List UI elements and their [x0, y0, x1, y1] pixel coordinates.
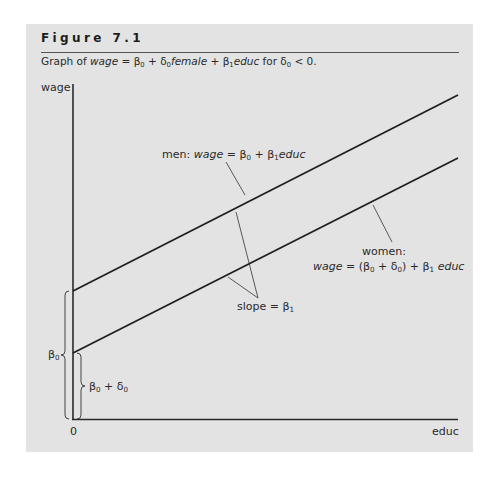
beta0-delta0-brace [77, 353, 85, 419]
origin-label: 0 [70, 426, 77, 437]
men-equation-label: men: wage = β0 + β1educ [162, 149, 306, 160]
women-leader-line [373, 205, 392, 242]
y-axis-label: wage [41, 82, 71, 93]
beta0-delta0-label: β0 + δ0 [89, 381, 128, 392]
women-title-label: women: [362, 246, 406, 257]
plot-area [0, 0, 495, 480]
beta0-label: β0 [48, 349, 60, 360]
x-axis-label: educ [432, 426, 459, 437]
beta0-brace [61, 291, 69, 419]
men-leader-line [226, 162, 245, 195]
slope-label: slope = β1 [237, 301, 294, 312]
women-equation-label: wage = (β0 + δ0) + β1 educ [313, 261, 464, 272]
